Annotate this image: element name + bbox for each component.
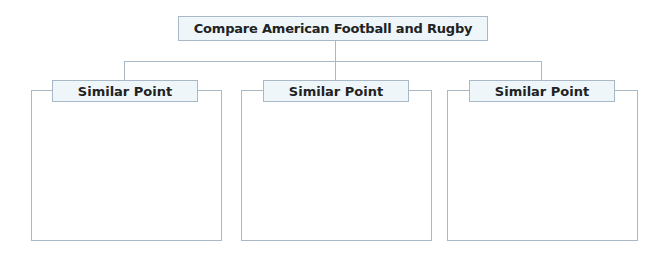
connector-horizontal — [124, 61, 542, 62]
similar-point-label-box-1: Similar Point — [52, 80, 198, 102]
similar-point-box-3[interactable] — [447, 90, 638, 241]
similar-point-box-2[interactable] — [241, 90, 432, 241]
connector-title-stem — [335, 41, 336, 62]
title-box: Compare American Football and Rugby — [178, 16, 488, 41]
similar-point-label-box-3: Similar Point — [469, 80, 615, 102]
connector-left-drop — [124, 61, 125, 81]
similar-point-label-box-2: Similar Point — [263, 80, 409, 102]
title-text: Compare American Football and Rugby — [194, 21, 473, 36]
similar-point-box-1[interactable] — [31, 90, 222, 241]
connector-right-drop — [541, 61, 542, 81]
connector-middle-drop — [335, 61, 336, 81]
similar-point-label-3: Similar Point — [495, 84, 589, 99]
similar-point-label-1: Similar Point — [78, 84, 172, 99]
similar-point-label-2: Similar Point — [289, 84, 383, 99]
